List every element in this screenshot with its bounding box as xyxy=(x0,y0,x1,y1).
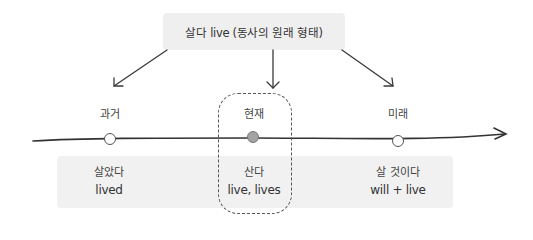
tense-label-present: 현재 xyxy=(244,105,264,121)
form-ko-present: 산다 xyxy=(244,163,264,179)
form-en-future: will + live xyxy=(370,183,425,197)
tense-label-future: 미래 xyxy=(388,105,408,121)
tense-label-past: 과거 xyxy=(100,105,120,121)
arrow-to-future-icon xyxy=(342,50,393,86)
future-marker-icon xyxy=(393,136,404,147)
form-en-past: lived xyxy=(95,183,122,197)
form-en-present: live, lives xyxy=(228,183,281,197)
form-ko-future: 살 것이다 xyxy=(376,163,420,179)
arrow-to-past-icon xyxy=(114,50,167,86)
arrow-to-present-icon xyxy=(267,50,279,88)
form-ko-past: 살았다 xyxy=(94,163,124,179)
past-marker-icon xyxy=(105,134,116,145)
